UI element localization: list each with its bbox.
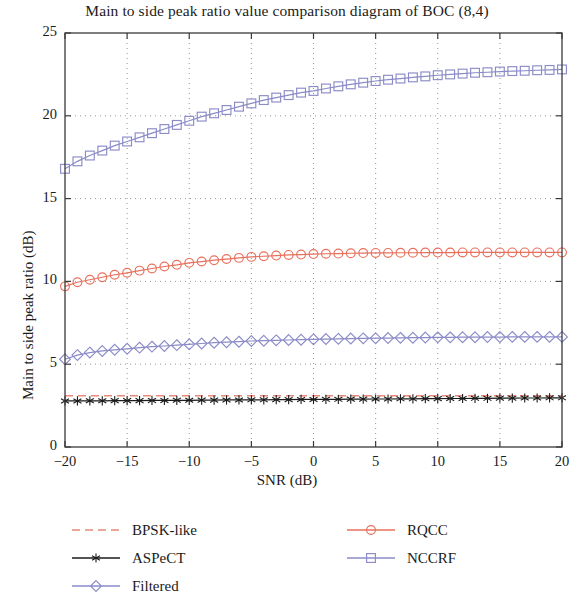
legend-swatch-none-icon [70,519,122,541]
legend-entry-nccrf[interactable]: NCCRF [345,544,456,572]
legend-label: ASPeCT [132,550,185,567]
legend-label: Filtered [132,578,179,595]
y-axis-label: Main to side peak ratio (dB) [20,230,37,400]
y-tick-label: 5 [13,354,57,371]
legend-entry-aspect[interactable]: ASPeCT [70,544,197,572]
y-tick-label: 0 [13,437,57,454]
legend-entry-bpsk-like[interactable]: BPSK-like [70,516,197,544]
legend-swatch-square-icon [345,547,397,569]
x-tick-label: −20 [40,453,90,470]
chart-figure: Main to side peak ratio value comparison… [0,0,574,603]
chart-legend: BPSK-likeASPeCTFiltered RQCCNCCRF [70,516,540,600]
plot-canvas [0,0,574,603]
legend-column-2: RQCCNCCRF [345,516,456,572]
y-tick-label: 20 [13,106,57,123]
legend-label: BPSK-like [132,522,197,539]
legend-label: NCCRF [407,550,456,567]
x-tick-label: 10 [413,453,463,470]
legend-column-1: BPSK-likeASPeCTFiltered [70,516,197,600]
x-tick-label: 5 [351,453,401,470]
y-tick-label: 15 [13,189,57,206]
legend-label: RQCC [407,522,448,539]
legend-swatch-diamond-icon [70,575,122,597]
x-tick-label: −15 [102,453,152,470]
x-tick-label: 20 [537,453,574,470]
x-tick-label: −10 [164,453,214,470]
x-tick-label: 15 [475,453,525,470]
x-tick-label: −5 [226,453,276,470]
legend-entry-rqcc[interactable]: RQCC [345,516,456,544]
legend-entry-filtered[interactable]: Filtered [70,572,197,600]
legend-swatch-star-icon [70,547,122,569]
x-axis-label: SNR (dB) [0,472,574,489]
y-tick-label: 10 [13,271,57,288]
legend-swatch-circle-icon [345,519,397,541]
y-tick-label: 25 [13,23,57,40]
x-tick-label: 0 [289,453,339,470]
